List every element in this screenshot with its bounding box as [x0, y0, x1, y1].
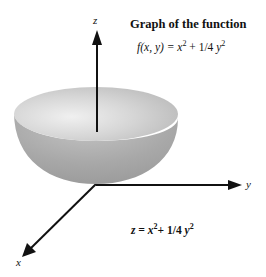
function-lhs: f(x, y) =: [137, 41, 174, 53]
function-y-exp: 2: [221, 39, 225, 48]
equation-lhs: z =: [131, 224, 145, 236]
x-axis: [22, 184, 96, 257]
y-axis-label: y: [246, 178, 251, 190]
function-definition: f(x, y) = x2 + 1/4 y2: [137, 41, 225, 53]
surface-equation: z = x2+ 1/4 y2: [131, 224, 194, 236]
equation-plus: + 1/4: [158, 224, 182, 236]
function-x-exp: 2: [182, 39, 186, 48]
x-axis-label: x: [16, 256, 21, 268]
figure-title: Graph of the function: [130, 17, 246, 32]
equation-y-exp: 2: [190, 222, 194, 231]
z-axis-label: z: [93, 14, 97, 26]
function-plus: + 1/4: [189, 41, 213, 53]
